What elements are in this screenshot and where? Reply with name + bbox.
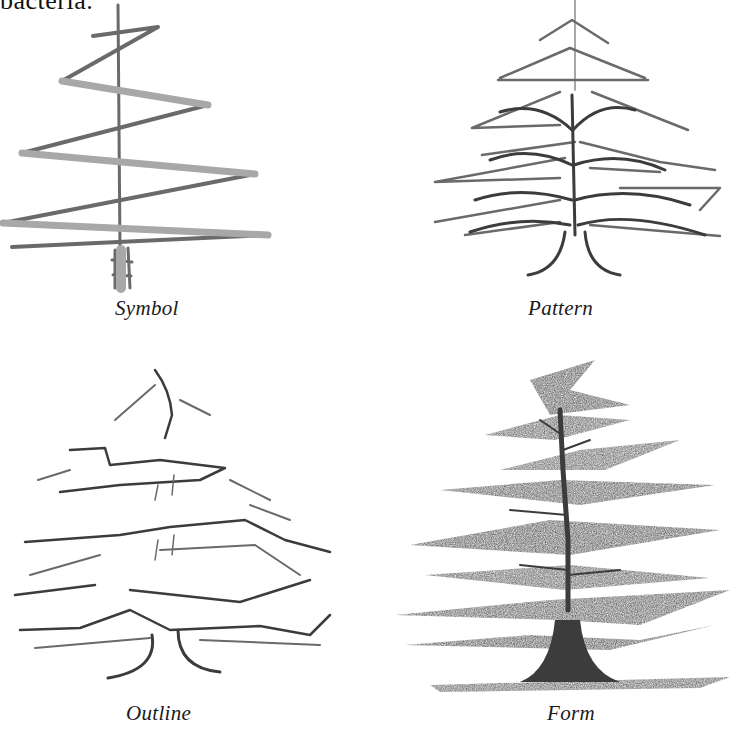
figure-panel-pattern: Pattern [420,0,746,330]
branch-pattern-tree-sketch-icon [420,0,746,300]
caption-pattern: Pattern [528,296,593,321]
figure-panel-outline: Outline [0,330,370,739]
zigzag-tree-sketch-icon [0,0,300,300]
figure-panel-symbol: Symbol [0,0,300,330]
caption-outline: Outline [126,701,191,726]
caption-form: Form [547,701,595,726]
figure-panel-form: Form [380,320,746,739]
shaded-form-tree-sketch-icon [380,320,746,710]
caption-symbol: Symbol [115,296,179,321]
outline-tree-sketch-icon [0,330,370,710]
